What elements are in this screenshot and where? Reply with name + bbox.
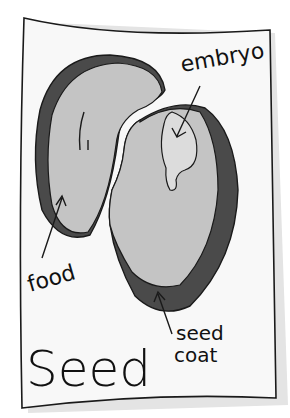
label-seed-coat-1: seed — [176, 321, 224, 345]
diagram-title: Seed — [26, 340, 151, 398]
seed-diagram: embryo food seed coat Seed — [0, 0, 290, 418]
label-seed-coat-2: coat — [174, 343, 217, 367]
